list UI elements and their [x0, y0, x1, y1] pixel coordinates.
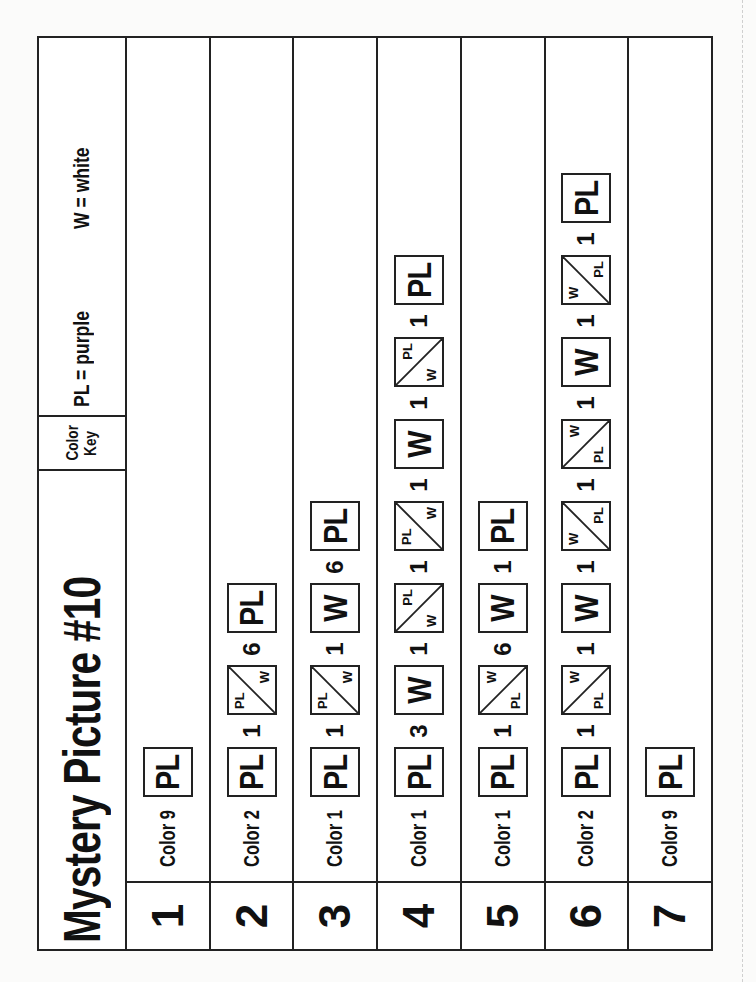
skip-count: 1	[405, 639, 433, 659]
color-tile-split: WPL	[561, 501, 611, 551]
color-tile-split: PLW	[394, 501, 444, 551]
row-number: 1	[127, 881, 209, 949]
color-tile-solid: PL	[394, 255, 444, 305]
tile-half-code: W	[425, 507, 438, 519]
color-tile-solid: W	[478, 583, 528, 633]
color-tile-solid: PL	[310, 501, 360, 551]
color-tile-solid: PL	[645, 747, 695, 797]
instruction-row: 5Color 1PL1PLW6W1PL	[462, 38, 546, 949]
skip-count: 1	[572, 475, 600, 495]
color-key-label: Color Key	[39, 415, 125, 469]
page-title: Mystery Picture #10	[52, 577, 112, 943]
color-tile-solid: W	[561, 583, 611, 633]
skip-count: 1	[572, 393, 600, 413]
skip-count: 1	[321, 721, 349, 741]
tile-color-code: PL	[148, 754, 187, 789]
color-tile-split: PLW	[478, 665, 528, 715]
instruction-row: 1Color 9PL	[127, 38, 211, 949]
tile-half-code: PL	[233, 692, 246, 709]
color-tile-solid: W	[310, 583, 360, 633]
skip-count: 1	[405, 475, 433, 495]
tile-color-code: PL	[400, 262, 439, 297]
color-tile-solid: W	[394, 665, 444, 715]
row-number: 5	[462, 881, 544, 949]
mystery-picture-worksheet: Mystery Picture #10 Color Key PL = purpl…	[37, 36, 713, 951]
tile-half-code: PL	[592, 446, 605, 463]
tile-color-code: PL	[483, 754, 522, 789]
start-instruction: Color 1	[322, 819, 348, 867]
skip-count: 1	[572, 311, 600, 331]
tile-half-code: PL	[509, 692, 522, 709]
skip-count: 1	[572, 229, 600, 249]
color-tile-split: WPL	[394, 583, 444, 633]
instruction-rows: 1Color 9PL2Color 2PL1PLW6PL3Color 1PL1PL…	[127, 38, 711, 949]
title-cell: Mystery Picture #10	[39, 469, 125, 949]
tile-color-code: PL	[316, 754, 355, 789]
color-tile-solid: PL	[227, 747, 277, 797]
color-tile-solid: W	[561, 337, 611, 387]
tile-color-code: PL	[651, 754, 690, 789]
page-perforation	[742, 0, 743, 982]
instruction-row: 3Color 1PL1PLW1W6PL	[294, 38, 378, 949]
skip-count: 1	[489, 557, 517, 577]
tile-half-code: PL	[401, 589, 414, 606]
color-tile-solid: PL	[227, 583, 277, 633]
start-instruction: Color 2	[573, 819, 599, 867]
row-number: 3	[294, 881, 376, 949]
tile-color-code: PL	[400, 754, 439, 789]
skip-count: 1	[405, 393, 433, 413]
skip-count: 6	[321, 557, 349, 577]
tile-half-code: W	[485, 671, 498, 683]
color-tile-split: PLW	[561, 665, 611, 715]
color-key-label-line2: Key	[82, 431, 100, 456]
color-key-entries: PL = purple W = white	[39, 38, 125, 415]
color-tile-solid: PL	[143, 747, 193, 797]
start-instruction: Color 9	[155, 819, 181, 867]
start-instruction: Color 1	[406, 819, 432, 867]
tile-half-code: W	[568, 671, 581, 683]
row-sequence: Color 2PL1PLW1W1WPL1PLW1W1WPL1PL	[546, 38, 628, 881]
color-tile-solid: PL	[394, 747, 444, 797]
skip-count: 1	[405, 557, 433, 577]
row-number: 4	[378, 881, 460, 949]
color-tile-split: WPL	[394, 337, 444, 387]
tile-half-code: PL	[401, 343, 414, 360]
tile-half-code: W	[425, 369, 438, 381]
row-sequence: Color 9PL	[629, 38, 711, 881]
skip-count: 1	[572, 639, 600, 659]
start-instruction: Color 2	[239, 819, 265, 867]
tile-half-code: PL	[592, 692, 605, 709]
row-number: 7	[629, 881, 711, 949]
skip-count: 1	[321, 639, 349, 659]
start-instruction: Color 1	[490, 819, 516, 867]
instruction-row: 2Color 2PL1PLW6PL	[211, 38, 295, 949]
instruction-row: 7Color 9PL	[629, 38, 711, 949]
tile-color-code: W	[400, 431, 439, 457]
row-sequence: Color 9PL	[127, 38, 209, 881]
tile-color-code: W	[316, 595, 355, 621]
color-tile-solid: PL	[310, 747, 360, 797]
color-tile-solid: PL	[561, 173, 611, 223]
color-tile-solid: PL	[478, 501, 528, 551]
color-tile-split: PLW	[227, 665, 277, 715]
row-sequence: Color 1PL1PLW1W6PL	[294, 38, 376, 881]
skip-count: 1	[572, 557, 600, 577]
color-tile-solid: W	[394, 419, 444, 469]
tile-color-code: PL	[316, 508, 355, 543]
tile-half-code: W	[258, 671, 271, 683]
color-tile-solid: PL	[561, 747, 611, 797]
skip-count: 1	[405, 311, 433, 331]
tile-half-code: W	[425, 615, 438, 627]
tile-color-code: PL	[567, 180, 606, 215]
worksheet-header: Mystery Picture #10 Color Key PL = purpl…	[39, 38, 127, 949]
skip-count: 6	[489, 639, 517, 659]
tile-half-code: W	[567, 287, 580, 299]
color-key-label-line1: Color	[64, 425, 82, 461]
tile-half-code: W	[568, 425, 581, 437]
row-sequence: Color 2PL1PLW6PL	[211, 38, 293, 881]
tile-color-code: PL	[483, 508, 522, 543]
color-tile-split: WPL	[561, 255, 611, 305]
tile-color-code: W	[567, 595, 606, 621]
instruction-row: 4Color 1PL3W1WPL1PLW1W1WPL1PL	[378, 38, 462, 949]
tile-half-code: PL	[316, 692, 329, 709]
